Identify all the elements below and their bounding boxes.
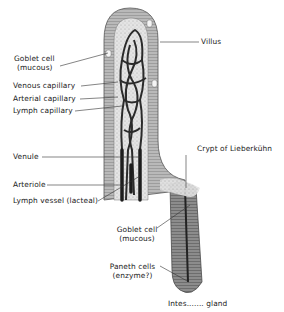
label-venous-capillary: Venous capillary [13, 82, 75, 91]
label-villus: Villus [201, 38, 221, 47]
label-arterial-capillary: Arterial capillary [13, 95, 76, 104]
villus-diagram: Villus Goblet cell (mucous) Venous capil… [0, 0, 284, 312]
label-arteriole: Arteriole [13, 181, 46, 190]
label-venule: Venule [13, 153, 39, 162]
label-goblet-cell-villus-note: (mucous) [17, 64, 53, 73]
label-intestinal-gland: Intes....... gland [168, 300, 227, 309]
intestinal-gland [160, 179, 202, 293]
label-goblet-cell-crypt-note: (mucous) [112, 235, 162, 244]
label-crypt-of-lieberkuhn: Crypt of Lieberkühn [197, 145, 272, 154]
label-paneth-cells-note: (enzyme?) [105, 272, 160, 281]
label-lymph-vessel: Lymph vessel (lacteal) [13, 197, 98, 206]
villus-body [104, 8, 185, 200]
label-lymph-capillary: Lymph capillary [13, 107, 73, 116]
